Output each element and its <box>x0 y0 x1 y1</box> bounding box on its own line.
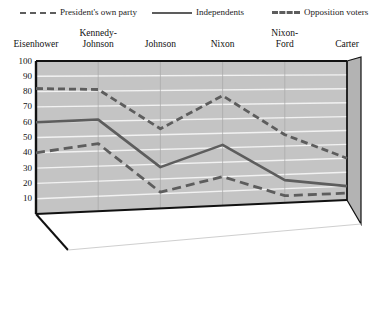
line-chart-svg <box>0 50 387 290</box>
x-axis-label-carter: Carter <box>308 39 386 50</box>
plot-surface <box>36 61 347 214</box>
legend-item-independents: Independents <box>152 8 244 17</box>
legend-line-dotdash-icon <box>272 11 300 14</box>
legend-line-dash-icon <box>20 12 56 14</box>
legend-label: Opposition voters <box>304 8 368 17</box>
legend-label: President's own party <box>60 8 137 17</box>
plot-side-panel <box>347 57 361 224</box>
chart-plot-area <box>0 50 387 290</box>
legend-item-presidents-own-party: President's own party <box>20 8 137 17</box>
legend-line-solid-icon <box>152 12 192 14</box>
chart-legend: President's own party Independents Oppos… <box>0 6 387 28</box>
legend-item-opposition-voters: Opposition voters <box>272 8 368 17</box>
legend-label: Independents <box>196 8 244 17</box>
